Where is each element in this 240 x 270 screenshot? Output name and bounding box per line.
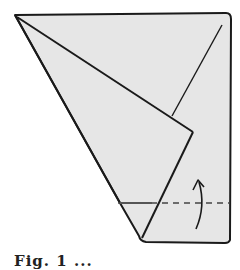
figure-caption: Fig. 1 ...: [14, 252, 93, 270]
paper-body: [15, 13, 231, 243]
